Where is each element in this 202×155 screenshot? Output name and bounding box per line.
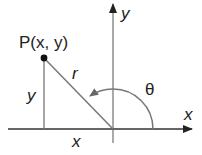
point-p-label: P(x, y) (19, 33, 68, 52)
vertical-leg-label: y (26, 86, 37, 105)
y-axis-label: y (120, 4, 131, 23)
angle-theta-label: θ (145, 80, 154, 99)
coordinate-diagram: P(x, y) r y x θ x y (0, 0, 202, 155)
horizontal-leg-label: x (71, 132, 81, 151)
radius-label: r (72, 64, 79, 83)
angle-arc (90, 89, 153, 129)
radius-line (44, 58, 113, 129)
x-axis-label: x (183, 105, 193, 124)
point-p-dot (41, 55, 48, 62)
